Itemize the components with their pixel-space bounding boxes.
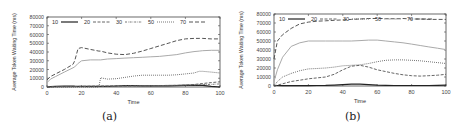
x-tick-label: 40 <box>113 90 119 96</box>
x-tick-label: 60 <box>374 89 380 95</box>
x-tick-label: 20 <box>305 89 311 95</box>
y-tick-label: 50000 <box>30 40 45 46</box>
legend-label: 50 <box>375 16 381 22</box>
y-tick-label: 10000 <box>30 75 45 81</box>
series-line-50 <box>47 71 220 87</box>
legend-label: 50 <box>148 19 154 25</box>
y-tick-label: 60000 <box>30 32 45 38</box>
y-tick-label: 80000 <box>257 11 272 17</box>
caption-a: (a) <box>102 110 117 123</box>
x-tick-label: 0 <box>272 89 275 95</box>
series-line-10 <box>274 84 446 85</box>
x-axis-label: Time <box>127 99 139 105</box>
y-tick-label: 40000 <box>30 49 45 55</box>
x-tick-label: 80 <box>182 90 188 96</box>
x-tick-label: 20 <box>79 90 85 96</box>
legend-label: 10 <box>279 16 285 22</box>
series-line-70-dashed <box>47 38 220 80</box>
series-line-70 <box>47 50 220 82</box>
y-tick-label: 60000 <box>257 29 272 35</box>
series-line-20 <box>274 65 446 86</box>
y-axis-label: Average Token Waiting Time (ms) <box>238 11 244 89</box>
y-tick-label: 30000 <box>30 58 45 64</box>
y-tick-label: 20000 <box>30 67 45 73</box>
x-tick-label: 60 <box>148 90 154 96</box>
y-tick-label: 40000 <box>257 47 272 53</box>
x-tick-label: 40 <box>340 89 346 95</box>
x-axis-label: Time <box>354 98 366 104</box>
x-tick-label: 80 <box>409 89 415 95</box>
y-tick-label: 80000 <box>30 14 45 20</box>
legend-label: 30 <box>343 16 349 22</box>
y-tick-label: 0 <box>41 84 44 90</box>
y-tick-label: 70000 <box>257 20 272 26</box>
y-tick-label: 20000 <box>257 65 272 71</box>
legend-label: 10 <box>52 19 58 25</box>
x-tick-label: 0 <box>45 90 48 96</box>
y-tick-label: 70000 <box>30 23 45 29</box>
x-tick-label: 100 <box>441 89 450 95</box>
legend-label: 20 <box>84 19 90 25</box>
y-tick-label: 10000 <box>257 74 272 80</box>
series-line-30 <box>274 60 446 86</box>
y-axis-label: Average Token Waiting Time (ms) <box>11 13 17 91</box>
legend-label: 70 <box>407 16 413 22</box>
series-line-70 <box>274 19 446 60</box>
legend-label: 20 <box>311 16 317 22</box>
chart-panel-b: 0100002000030000400005000060000700008000… <box>231 0 462 132</box>
plot-frame <box>274 14 446 86</box>
y-tick-label: 30000 <box>257 56 272 62</box>
y-tick-label: 50000 <box>257 38 272 44</box>
x-tick-label: 100 <box>215 90 224 96</box>
legend-label: 70 <box>180 19 186 25</box>
caption-b: (b) <box>345 110 361 123</box>
y-tick-label: 0 <box>268 83 271 89</box>
chart-panel-a: 0100002000030000400005000060000700008000… <box>0 0 231 132</box>
legend-label: 30 <box>116 19 122 25</box>
